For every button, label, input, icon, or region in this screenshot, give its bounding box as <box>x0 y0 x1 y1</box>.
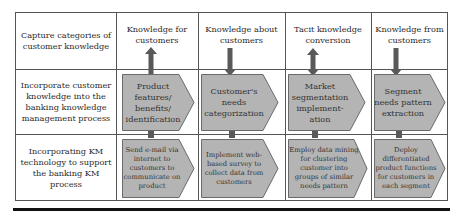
connector-block <box>312 131 318 138</box>
process-chevron-product-features: Product features/ benefits/ identificati… <box>122 74 195 131</box>
header-tacit-knowledge-conversion: Tacit knowledge conversion <box>285 24 371 46</box>
header-knowledge-about-customers: Knowledge about customers <box>198 24 285 46</box>
connector-block <box>229 131 235 138</box>
process-chevron-needs-categorization: Customer's needs categorization <box>201 74 279 131</box>
arrow-down-icon <box>390 48 402 76</box>
arrow-down-icon <box>224 48 236 76</box>
row-label-incorporate-process: Incorporate customer knowledge into the … <box>16 70 116 134</box>
process-chevron-market-segmentation: Market segmentation implement-ation <box>288 74 366 131</box>
connector-block <box>396 131 402 138</box>
bottom-rule <box>13 208 450 211</box>
connector-block <box>148 131 154 138</box>
tech-chevron-data-mining: Employ data mining for clustering custom… <box>288 139 368 198</box>
row-label-km-technology: Incorporating KM technology to support t… <box>16 135 116 201</box>
tech-chevron-web-survey: Implement web-based survey to collect da… <box>201 139 279 198</box>
arrow-up-icon <box>145 47 157 75</box>
header-knowledge-for-customers: Knowledge for customers <box>116 24 198 46</box>
process-chevron-segment-needs: Segment needs pattern extraction <box>374 74 446 131</box>
tech-chevron-send-email: Send e-mail via internet to customers to… <box>122 139 195 198</box>
header-knowledge-from-customers: Knowledge from customers <box>371 24 448 46</box>
row-label-capture: Capture categories of customer knowledge <box>16 13 116 69</box>
tech-chevron-deploy-products: Deploy differentiated product functions … <box>374 139 446 198</box>
arrow-bidirectional-icon <box>307 48 319 76</box>
